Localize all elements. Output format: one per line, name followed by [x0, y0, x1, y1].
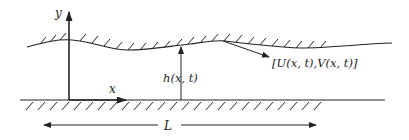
length-label: L [163, 119, 172, 133]
lower-wall [20, 100, 385, 110]
x-axis: x [69, 82, 126, 100]
upper-wall [27, 33, 392, 50]
y-axis: y [54, 6, 69, 100]
lower-wall-hatching [26, 102, 321, 110]
height-label: h(x, t) [163, 71, 198, 85]
channel-diagram: y x h(x, t) [U(x, t),V(x, t)] L [0, 0, 409, 140]
length-dimension: L [44, 119, 316, 133]
velocity-label: [U(x, t),V(x, t)] [272, 56, 358, 70]
height-arrow: h(x, t) [163, 47, 198, 100]
y-axis-label: y [54, 6, 62, 20]
velocity-pointer: [U(x, t),V(x, t)] [223, 41, 358, 70]
x-axis-label: x [109, 82, 116, 96]
